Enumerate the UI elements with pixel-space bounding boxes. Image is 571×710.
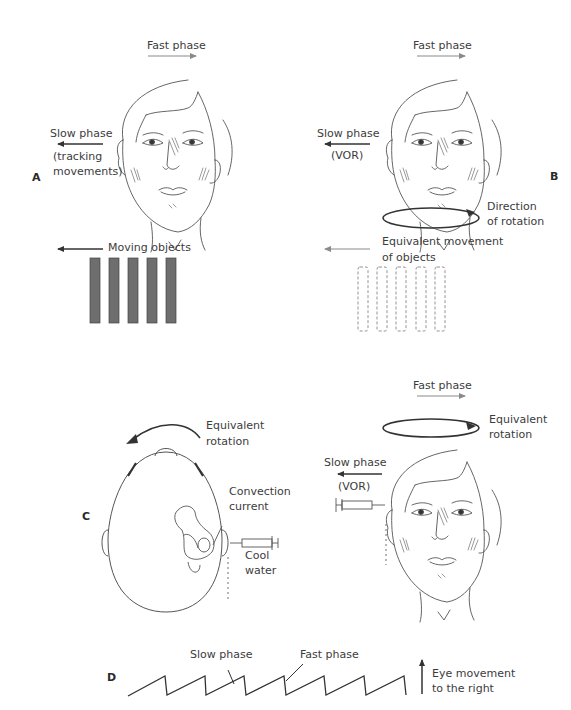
eye-movement-label-2: to the right [432,682,494,696]
panel-a-fast-phase-label: Fast phase [147,39,206,53]
convection-current-2: current [229,500,269,514]
rotation-ellipse-c [383,419,479,437]
cool-water-2: water [245,564,276,578]
moving-objects-label: Moving objects [108,241,191,255]
eye-movement-label-1: Eye movement [432,667,515,681]
head-top-view [108,452,222,612]
equivalent-rotation-arrow-c [132,425,200,440]
equivalent-objects-dashed [358,267,445,331]
panel-a-letter: A [32,171,41,184]
nystagmus-trace [128,676,406,696]
panel-b-fast-phase-label: Fast phase [413,39,472,53]
figure-drawing [0,0,571,710]
panel-d-letter: D [107,671,116,684]
panel-c-right-equivalent-2: rotation [489,428,532,442]
syringe-c-left [230,536,278,550]
panel-a-slow-detail-1: (tracking [53,150,102,164]
rotation-ellipse-b [383,208,479,228]
panel-d-slow-phase-label: Slow phase [190,648,252,662]
panel-c-letter: C [82,510,90,523]
moving-objects-bars [90,258,176,323]
panel-c-fast-phase-label: Fast phase [413,379,472,393]
panel-c-equivalent-1: Equivalent [206,419,264,433]
panel-c-slow-phase-label: Slow phase [324,456,386,470]
face-a [117,80,232,252]
panel-c-right-equivalent-1: Equivalent [489,413,547,427]
equivalent-movement-2: of objects [382,251,436,265]
panel-a-slow-phase-label: Slow phase [50,127,112,141]
syringe-c-right [336,498,385,512]
panel-d-fast-phase-label: Fast phase [300,648,359,662]
cool-water-1: Cool [245,549,269,563]
panel-c-vor-label: (VOR) [338,480,370,494]
panel-c-equivalent-2: rotation [206,435,249,449]
panel-a-slow-detail-2: movements) [53,165,123,179]
direction-of-rotation-1: Direction [487,200,537,214]
direction-of-rotation-2: of rotation [487,215,544,229]
panel-b-slow-phase-label: Slow phase [317,127,379,141]
equivalent-movement-1: Equivalent movement [382,235,503,249]
convection-current-1: Convection [229,485,291,499]
face-c [386,450,501,622]
panel-b-vor-label: (VOR) [331,149,363,163]
panel-b-letter: B [550,170,558,183]
labyrinth [175,506,214,572]
